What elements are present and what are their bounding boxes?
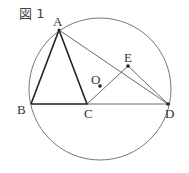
label-e: E	[124, 50, 132, 65]
segment-ad	[59, 30, 168, 104]
label-a: A	[53, 14, 63, 29]
label-c: C	[84, 106, 93, 121]
label-b: B	[17, 102, 26, 117]
segment-ed	[128, 66, 168, 104]
label-d: D	[165, 106, 174, 121]
label-o: O	[91, 72, 100, 87]
triangle-abc	[31, 30, 87, 104]
circle-o	[29, 18, 171, 160]
geometry-diagram: A B C D E O	[0, 0, 189, 173]
